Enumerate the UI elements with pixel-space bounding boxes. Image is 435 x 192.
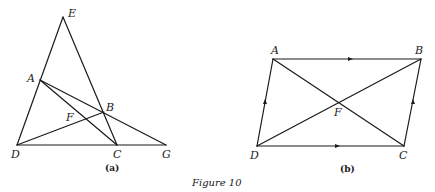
figure-b: A B D C F (b): [249, 44, 423, 174]
label-a: A: [26, 72, 35, 85]
segment-db: [17, 112, 104, 145]
arrow-marker-right: [411, 99, 415, 104]
label-g: G: [162, 148, 171, 161]
arrow-marker-left: [263, 99, 267, 104]
segment-db: [257, 59, 421, 146]
label-b: B: [105, 101, 114, 114]
sublabel-b: (b): [340, 164, 355, 174]
label-e: E: [67, 7, 76, 20]
label-f: F: [333, 106, 342, 119]
sublabel-a: (a): [105, 163, 119, 173]
label-d: D: [249, 149, 259, 162]
arrow-marker-bottom: [335, 144, 340, 148]
segment-ec: [63, 17, 117, 145]
label-b: B: [414, 44, 423, 57]
label-c: C: [113, 148, 122, 161]
label-d: D: [10, 148, 20, 161]
segment-de: [17, 17, 63, 145]
figure-canvas: E A B F D C G (a) A B D C F (b) Figure 1…: [0, 0, 435, 192]
label-a: A: [270, 44, 279, 57]
figure-a: E A B F D C G (a): [10, 7, 171, 173]
label-c: C: [399, 149, 408, 162]
arrow-marker-top: [348, 57, 353, 61]
figure-caption: Figure 10: [191, 177, 242, 188]
label-f: F: [65, 111, 74, 124]
